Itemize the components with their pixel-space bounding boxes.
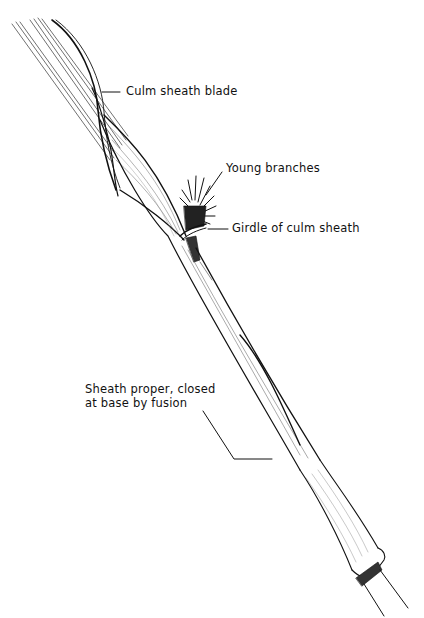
leader-young-branches (206, 172, 222, 195)
label-girdle-of-culm-sheath: Girdle of culm sheath (232, 222, 360, 235)
leader-sheath-proper (203, 411, 272, 459)
label-culm-sheath-blade: Culm sheath blade (126, 85, 238, 98)
bamboo-culm-diagram: Culm sheath blade Young branches Girdle … (0, 0, 424, 618)
label-young-branches: Young branches (226, 162, 320, 175)
young-branches-tuft (180, 176, 216, 230)
upper-culm (12, 18, 128, 160)
lower-node (300, 460, 385, 586)
label-sheath-proper-line2: at base by fusion (85, 397, 187, 410)
label-sheath-proper-line1: Sheath proper, closed (85, 383, 216, 396)
